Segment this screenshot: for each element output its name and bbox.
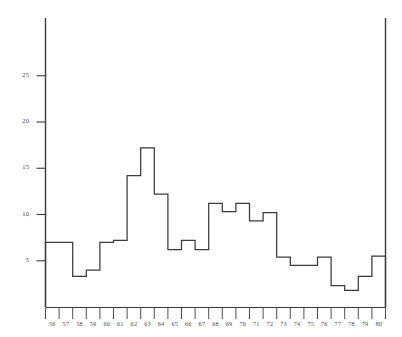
- y-tick-label: 25: [12, 71, 30, 78]
- axis-lines: [46, 18, 387, 308]
- y-axis-ticks: [37, 76, 46, 261]
- step-chart-plot: [0, 0, 402, 337]
- step-series-path: [46, 148, 386, 307]
- x-axis-ticks: [46, 308, 386, 319]
- chart-figure: 510152025 565758596061626364656667686970…: [0, 0, 402, 337]
- y-tick-label: 15: [12, 163, 30, 170]
- y-tick-label: 5: [12, 256, 30, 263]
- y-tick-label: 20: [12, 117, 30, 124]
- x-tick-label: 80: [369, 320, 389, 327]
- y-tick-label: 10: [12, 210, 30, 217]
